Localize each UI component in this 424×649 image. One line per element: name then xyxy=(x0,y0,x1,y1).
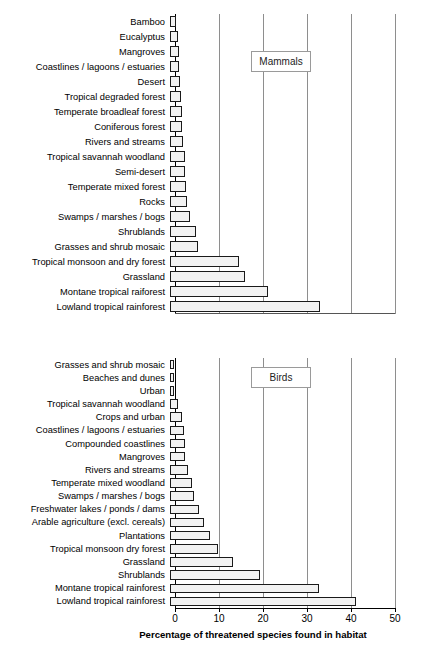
category-label: Tropical savannah woodland xyxy=(0,399,170,409)
category-label: Rivers and streams xyxy=(0,137,170,147)
bar xyxy=(170,241,198,252)
bar xyxy=(170,61,179,72)
bar-track xyxy=(170,411,424,424)
table-row: Rocks xyxy=(0,194,424,209)
chart-figure: BambooEucalyptusMangrovesCoastlines / la… xyxy=(0,0,424,649)
category-label: Lowland tropical rainforest xyxy=(0,596,170,606)
legend-birds: Birds xyxy=(251,367,311,388)
x-tick xyxy=(351,608,352,612)
bar xyxy=(170,373,174,382)
bar xyxy=(170,518,204,527)
bar xyxy=(170,360,174,369)
bar xyxy=(170,399,178,408)
bar xyxy=(170,426,184,435)
bar-track xyxy=(170,239,424,254)
bar-track xyxy=(170,209,424,224)
bar xyxy=(170,465,188,474)
x-axis-label-text: Percentage of threatened species found i… xyxy=(57,629,367,640)
category-label: Urban xyxy=(0,386,170,396)
bar-rows-birds: Grasses and shrub mosaicBeaches and dune… xyxy=(0,358,424,608)
table-row: Eucalyptus xyxy=(0,29,424,44)
bar-track xyxy=(170,29,424,44)
bar-track xyxy=(170,424,424,437)
table-row: Bamboo xyxy=(0,14,424,29)
category-label: Shrublands xyxy=(0,227,170,237)
category-label: Semi-desert xyxy=(0,167,170,177)
x-tick xyxy=(263,608,264,612)
bar xyxy=(170,584,319,593)
category-label: Compounded coastlines xyxy=(0,439,170,449)
bar-track xyxy=(170,134,424,149)
bar-track xyxy=(170,582,424,595)
bar-track xyxy=(170,516,424,529)
bar xyxy=(170,491,194,500)
bar-track xyxy=(170,463,424,476)
category-label: Temperate mixed forest xyxy=(0,182,170,192)
table-row: Desert xyxy=(0,74,424,89)
bar-track xyxy=(170,269,424,284)
category-label: Montane tropical rainforest xyxy=(0,583,170,593)
table-row: Coniferous forest xyxy=(0,119,424,134)
bar-track xyxy=(170,529,424,542)
category-label: Mangroves xyxy=(0,452,170,462)
x-tick-label: 50 xyxy=(380,613,410,624)
category-label: Montane tropical raiforest xyxy=(0,287,170,297)
bar-track xyxy=(170,397,424,410)
table-row: Tropical savannah woodland xyxy=(0,397,424,410)
category-label: Crops and urban xyxy=(0,412,170,422)
table-row: Lowland tropical rainforest xyxy=(0,299,424,314)
bar xyxy=(170,412,182,421)
table-row: Temperate mixed woodland xyxy=(0,476,424,489)
bar xyxy=(170,570,260,579)
bar xyxy=(170,91,181,102)
bar xyxy=(170,211,190,222)
table-row: Grasses and shrub mosaic xyxy=(0,239,424,254)
x-tick-label: 10 xyxy=(204,613,234,624)
bar-track xyxy=(170,194,424,209)
panel-mammals: BambooEucalyptusMangrovesCoastlines / la… xyxy=(0,14,424,314)
category-label: Eucalyptus xyxy=(0,32,170,42)
x-tick-label: 20 xyxy=(248,613,278,624)
bar-track xyxy=(170,476,424,489)
category-label: Grasses and shrub mosaic xyxy=(0,242,170,252)
bar-track xyxy=(170,595,424,608)
bar xyxy=(170,166,185,177)
x-axis-label: Percentage of threatened species found i… xyxy=(0,629,424,640)
table-row: Freshwater lakes / ponds / dams xyxy=(0,503,424,516)
table-row: Grasses and shrub mosaic xyxy=(0,358,424,371)
x-axis xyxy=(175,608,396,609)
table-row: Shrublands xyxy=(0,569,424,582)
category-label: Temperate mixed woodland xyxy=(0,478,170,488)
table-row: Coastlines / lagoons / estuaries xyxy=(0,59,424,74)
bar xyxy=(170,544,218,553)
table-row: Arable agriculture (excl. cereals) xyxy=(0,516,424,529)
bar-track xyxy=(170,437,424,450)
bar-track xyxy=(170,284,424,299)
table-row: Mangroves xyxy=(0,450,424,463)
table-row: Swamps / marshes / bogs xyxy=(0,490,424,503)
bar xyxy=(170,16,176,27)
bar-track xyxy=(170,119,424,134)
bar xyxy=(170,301,320,312)
table-row: Grassland xyxy=(0,555,424,568)
bar-track xyxy=(170,254,424,269)
bar-track xyxy=(170,179,424,194)
category-label: Bamboo xyxy=(0,17,170,27)
bar-track xyxy=(170,569,424,582)
x-tick xyxy=(175,608,176,612)
bar-track xyxy=(170,503,424,516)
bar xyxy=(170,106,182,117)
category-label: Rocks xyxy=(0,197,170,207)
category-label: Rivers and streams xyxy=(0,465,170,475)
table-row: Rivers and streams xyxy=(0,463,424,476)
bar-track xyxy=(170,164,424,179)
x-tick-label: 30 xyxy=(292,613,322,624)
bar-track xyxy=(170,224,424,239)
bar-track xyxy=(170,542,424,555)
bar xyxy=(170,439,185,448)
table-row: Beaches and dunes xyxy=(0,371,424,384)
bar-track xyxy=(170,450,424,463)
bar xyxy=(170,286,268,297)
bar xyxy=(170,46,179,57)
bar-track xyxy=(170,104,424,119)
